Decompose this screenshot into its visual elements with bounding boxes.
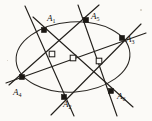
vertex-marker-a6 <box>108 88 113 93</box>
vertex-label-a3-letter: A <box>126 34 132 44</box>
vertex-label-a6: A6 <box>117 92 126 101</box>
vertex-label-a5-subscript: 5 <box>97 16 100 22</box>
vertex-label-a1: A1 <box>47 14 56 23</box>
vertex-marker-a4 <box>19 74 24 79</box>
pascal-theorem-figure: A1 A5 A3 A4 A2 A6 <box>0 0 152 121</box>
vertex-label-a2-subscript: 2 <box>69 104 72 110</box>
vertex-label-a6-subscript: 6 <box>123 96 126 102</box>
pascal-point-p1 <box>49 51 55 57</box>
pascal-point-p2 <box>70 55 76 61</box>
vertex-label-a4: A4 <box>13 88 22 97</box>
vertex-marker-a5 <box>83 17 88 22</box>
vertex-label-a3-subscript: 3 <box>132 39 135 45</box>
vertex-marker-a1 <box>41 27 46 32</box>
geometry-canvas <box>0 0 152 121</box>
vertex-label-a5-letter: A <box>91 11 97 21</box>
paper-speck <box>7 60 8 61</box>
vertex-label-a2: A2 <box>63 100 72 109</box>
vertex-label-a4-letter: A <box>13 87 19 97</box>
vertex-label-a4-subscript: 4 <box>19 92 22 98</box>
vertex-marker-a3 <box>119 35 124 40</box>
pascal-point-p3 <box>96 58 102 64</box>
paper-speck <box>140 9 142 11</box>
vertex-label-a2-letter: A <box>63 99 69 109</box>
vertex-label-a1-letter: A <box>47 13 53 23</box>
vertex-label-a1-subscript: 1 <box>53 18 56 24</box>
vertex-label-a3: A3 <box>126 35 135 44</box>
vertex-label-a5: A5 <box>91 12 100 21</box>
pascal-points-group <box>49 51 102 64</box>
vertex-label-a6-letter: A <box>117 91 123 101</box>
